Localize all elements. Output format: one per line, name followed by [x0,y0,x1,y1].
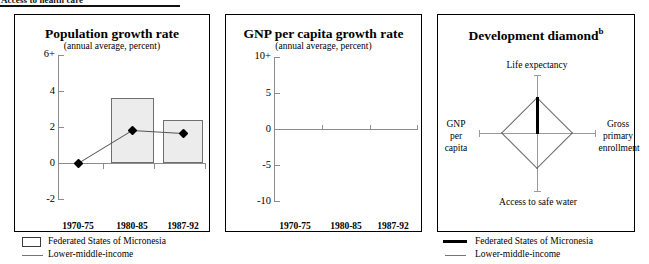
gnp-ytick-neg5 [275,165,280,166]
legend-right-label-income-group: Lower-middle-income [475,249,560,259]
diamond-axis-cap-top [534,75,541,76]
gnp-ylabel-10: 10+ [230,50,271,61]
population-ylabel-6: 6+ [21,48,55,59]
legend-left: Federated States of Micronesia Lower-mid… [14,236,224,262]
legend-left-label-income-group: Lower-middle-income [48,249,133,259]
gnp-ytick-10 [275,57,280,58]
legend-right-label-country: Federated States of Micronesia [475,236,593,246]
diamond-outline-side-bottom-left [501,132,538,169]
diamond-label-access-to-safe-water: Access to safe water [478,196,598,208]
diamond-label-gross-primary-enrollment-line2: primary [598,130,638,142]
diamond-value-life-expectancy [536,97,539,134]
gnp-xlabel-1987-92: 1987-92 [365,221,421,231]
gnp-xtick-1987-92 [370,125,371,130]
legend-right-row-country: Federated States of Micronesia [437,236,649,249]
diamond-axis-cap-bottom [534,191,541,192]
diamond-plot-area: Life expectancy Access to safe water GNP… [438,15,636,233]
diamond-label-life-expectancy: Life expectancy [487,59,587,71]
gnp-xtick-1980-85 [322,125,323,130]
panel-development-diamond: Development diamondb Life expectancy Acc… [437,14,635,232]
population-xtick-1987-92 [205,164,206,169]
gnp-x-axis [274,129,418,130]
panel-population-growth-rate: Population growth rate (annual average, … [14,14,210,232]
diamond-label-gross-primary-enrollment-line3: enrollment [593,142,645,154]
gnp-xlabel-1970-75: 1970-75 [267,221,323,231]
thick-line-icon [443,240,467,243]
diamond-axis-cap-left [479,130,480,137]
legend-left-row-income-group: Lower-middle-income [14,249,224,262]
population-xlabel-1987-92: 1987-92 [155,221,211,231]
diamond-label-gnp-per-capita-line2: per [436,130,476,142]
population-xlabel-1970-75: 1970-75 [50,221,106,231]
population-ytick-6 [59,55,64,56]
population-ylabel-neg2: -2 [21,193,55,204]
population-plot-area: 6+ 4 2 0 -2 1970-75 1980-85 1987-92 [15,15,211,233]
population-xlabel-1980-85: 1980-85 [104,221,160,231]
gnp-ylabel-5: 5 [230,87,271,98]
truncated-page-header: Access to health care [0,0,649,9]
population-ylabel-2: 2 [21,121,55,132]
gnp-ylabel-neg5: -5 [230,159,271,170]
gnp-ylabel-neg10: -10 [230,195,271,206]
gnp-ylabel-0: 0 [230,123,271,134]
population-bar-1987-92 [163,120,203,163]
diamond-outline-side-bottom-right [536,132,573,169]
population-ytick-2 [59,127,64,128]
legend-right: Federated States of Micronesia Lower-mid… [437,236,649,262]
diamond-label-gnp-per-capita-line3: capita [436,142,476,154]
population-ylabel-4: 4 [21,85,55,96]
diamond-outline-side-top-right [536,97,573,134]
diamond-label-gross-primary-enrollment-line1: Gross [598,118,638,130]
thin-line-icon [445,255,466,256]
gnp-ytick-neg10 [275,201,280,202]
diamond-label-gnp-per-capita-line1: GNP [436,118,476,130]
thin-line-icon [22,255,43,256]
legend-left-row-country: Federated States of Micronesia [14,236,224,249]
diamond-outline-side-top-left [501,97,538,134]
legend-left-label-country: Federated States of Micronesia [48,236,166,246]
population-xtick-1980-85 [154,164,155,169]
gnp-plot-area: 10+ 5 0 -5 -10 1970-75 1980-85 1987-92 [226,15,423,233]
diamond-axis-cap-right [595,130,596,137]
population-ylabel-0: 0 [21,157,55,168]
legend-right-row-income-group: Lower-middle-income [437,249,649,262]
population-ytick-4 [59,91,64,92]
gnp-ytick-5 [275,93,280,94]
gnp-xtick-end [417,125,418,130]
population-xtick-1970-75 [103,164,104,169]
header-rule [0,5,180,7]
open-box-icon [22,237,41,247]
panel-gnp-per-capita-growth-rate: GNP per capita growth rate (annual avera… [225,14,422,232]
population-ytick-neg2 [59,199,64,200]
